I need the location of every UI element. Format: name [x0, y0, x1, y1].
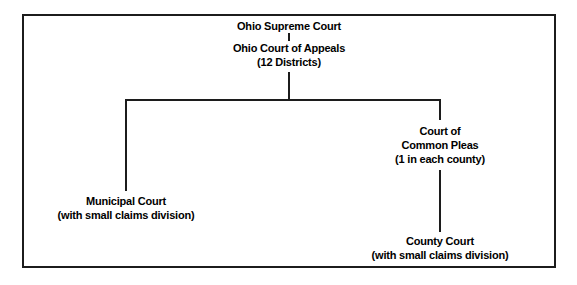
node-label-line: (with small claims division)	[372, 248, 509, 262]
connector-bracket-to-municipal-court	[125, 99, 127, 191]
connector-appeals-to-bracket	[288, 72, 290, 100]
node-label-line: Ohio Court of Appeals	[233, 41, 345, 55]
node-label-line: Common Pleas	[395, 138, 485, 152]
node-court-of-common-pleas: Court of Common Pleas (1 in each county)	[395, 124, 485, 166]
connector-supreme-to-appeals	[288, 33, 290, 41]
node-label-line: (1 in each county)	[395, 152, 485, 166]
connector-bracket-to-common-pleas	[439, 99, 441, 120]
court-hierarchy-diagram: Ohio Supreme Court Ohio Court of Appeals…	[0, 0, 577, 285]
node-label-line: County Court	[372, 234, 509, 248]
node-label-line: Court of	[395, 124, 485, 138]
node-label-line: (12 Districts)	[233, 55, 345, 69]
node-ohio-court-of-appeals: Ohio Court of Appeals (12 Districts)	[233, 41, 345, 69]
node-county-court: County Court (with small claims division…	[372, 234, 509, 262]
node-municipal-court: Municipal Court (with small claims divis…	[58, 194, 195, 222]
node-ohio-supreme-court: Ohio Supreme Court	[237, 19, 341, 33]
connector-split-bracket	[125, 99, 441, 101]
node-label-line: Municipal Court	[58, 194, 195, 208]
connector-common-pleas-to-county-court	[439, 170, 441, 232]
node-label-line: Ohio Supreme Court	[237, 19, 341, 33]
node-label-line: (with small claims division)	[58, 208, 195, 222]
